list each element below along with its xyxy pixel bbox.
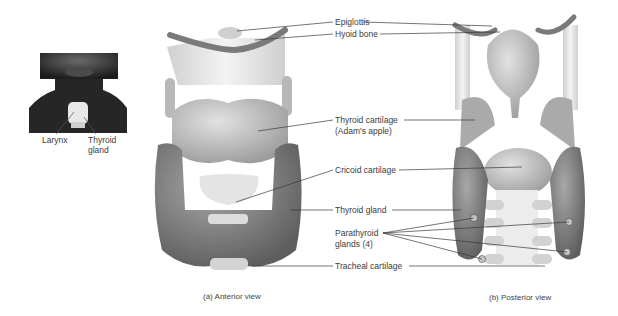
inset-label-larynx: Larynx [42, 135, 68, 145]
label-cricoid-cartilage: Cricoid cartilage [335, 165, 396, 175]
label-parathyroid-count: glands (4) [335, 239, 373, 249]
label-thyroid-gland: Thyroid gland [335, 205, 387, 215]
caption-posterior-view: (b) Posterior view [489, 293, 551, 302]
inset-label-thyroid-line1: Thyroid [88, 135, 116, 145]
label-hyoid-bone: Hyoid bone [335, 29, 378, 39]
label-parathyroid: Parathyroid [335, 228, 378, 238]
anatomy-illustration [0, 0, 618, 316]
inset-label-thyroid-line2: gland [88, 145, 109, 155]
label-thyroid-cartilage: Thyroid cartilage [335, 115, 398, 125]
inset-neck-photo [29, 53, 127, 134]
anterior-larynx [155, 27, 302, 270]
label-tracheal-cartilage: Tracheal cartilage [335, 261, 402, 271]
label-epiglottis: Epiglottis [335, 17, 370, 27]
caption-anterior-view: (a) Anterior view [203, 292, 261, 301]
label-adams-apple: (Adam's apple) [335, 126, 392, 136]
